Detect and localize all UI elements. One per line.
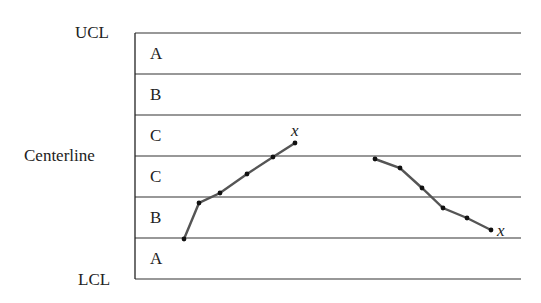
zone-label: C <box>150 167 161 186</box>
data-point <box>420 186 425 191</box>
data-point <box>218 191 223 196</box>
lcl-label: LCL <box>78 270 110 289</box>
zone-boundaries <box>135 33 521 279</box>
zone-label: A <box>150 249 163 268</box>
zone-label: C <box>150 126 161 145</box>
data-point <box>441 206 446 211</box>
data-point <box>465 216 470 221</box>
end-marker: x <box>496 221 505 240</box>
data-point <box>398 166 403 171</box>
zone-label: B <box>150 208 161 227</box>
series-line <box>184 143 295 239</box>
ucl-label: UCL <box>75 23 109 42</box>
end-marker: x <box>290 121 299 140</box>
data-point <box>182 237 187 242</box>
zone-label: A <box>150 44 163 63</box>
data-point <box>197 201 202 206</box>
data-point <box>271 155 276 160</box>
series-line <box>375 159 491 230</box>
data-point <box>489 228 494 233</box>
data-point <box>245 172 250 177</box>
data-series: xx <box>182 121 505 241</box>
zone-label: B <box>150 85 161 104</box>
control-chart: UCL Centerline LCL ABCCBA xx <box>0 0 541 303</box>
data-point <box>373 157 378 162</box>
data-point <box>293 141 298 146</box>
centerline-label: Centerline <box>24 146 95 165</box>
